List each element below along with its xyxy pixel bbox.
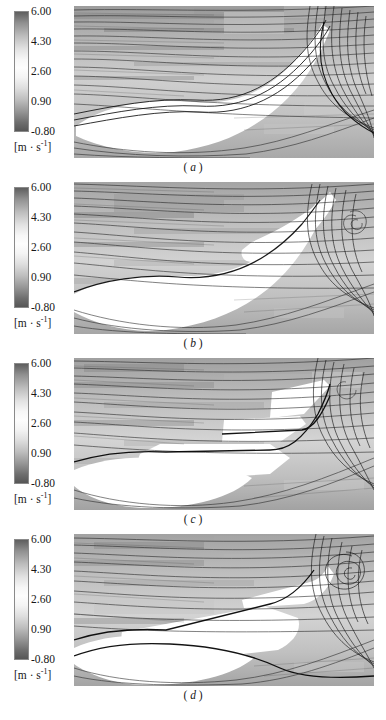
flow-svg-b	[74, 182, 374, 334]
colorbar-tick-labels: 6.00 4.30 2.60 0.90 -0.80	[31, 5, 75, 138]
caption-b: ( b )	[0, 336, 386, 350]
caption-close: )	[199, 689, 203, 701]
figure-root: 6.00 4.30 2.60 0.90 -0.80 [m · s-1]	[0, 0, 386, 720]
caption-close: )	[199, 161, 203, 173]
panel-c: 6.00 4.30 2.60 0.90 -0.80 [m · s-1]	[0, 352, 386, 527]
caption-open: (	[184, 513, 188, 525]
panel-a: 6.00 4.30 2.60 0.90 -0.80 [m · s-1]	[0, 0, 386, 175]
colorbar-tick: -0.80	[31, 477, 55, 489]
units-exponent: -1	[41, 139, 48, 148]
units-exponent: -1	[41, 491, 48, 500]
caption-d: ( d )	[0, 688, 386, 702]
colorbar-a: 6.00 4.30 2.60 0.90 -0.80 [m · s-1]	[14, 11, 72, 159]
colorbar-b: 6.00 4.30 2.60 0.90 -0.80 [m · s-1]	[14, 187, 72, 335]
caption-label: d	[190, 689, 196, 701]
caption-open: (	[183, 689, 187, 701]
flow-field-c	[74, 358, 374, 510]
flow-field-a	[74, 6, 374, 158]
colorbar-d: 6.00 4.30 2.60 0.90 -0.80 [m · s-1]	[14, 539, 72, 687]
units-text: [m · s	[14, 493, 41, 505]
colorbar-gradient	[14, 363, 29, 484]
flow-svg-c	[74, 358, 374, 510]
panel-b: 6.00 4.30 2.60 0.90 -0.80 [m · s-1]	[0, 176, 386, 351]
caption-a: ( a )	[0, 160, 386, 174]
colorbar-tick: 4.30	[31, 35, 51, 47]
colorbar-c: 6.00 4.30 2.60 0.90 -0.80 [m · s-1]	[14, 363, 72, 511]
caption-open: (	[183, 161, 187, 173]
colorbar-tick-labels: 6.00 4.30 2.60 0.90 -0.80	[31, 181, 75, 314]
caption-label: c	[190, 513, 195, 525]
units-bracket: ]	[48, 141, 52, 153]
units-text: [m · s	[14, 317, 41, 329]
colorbar-tick: 0.90	[31, 271, 51, 283]
colorbar-gradient	[14, 187, 29, 308]
flow-field-b	[74, 182, 374, 334]
colorbar-tick-labels: 6.00 4.30 2.60 0.90 -0.80	[31, 533, 75, 666]
colorbar-tick: 6.00	[31, 533, 51, 545]
colorbar-tick: 0.90	[31, 447, 51, 459]
colorbar-tick: 2.60	[31, 241, 51, 253]
colorbar-tick: 2.60	[31, 417, 51, 429]
panel-d: 6.00 4.30 2.60 0.90 -0.80 [m · s-1]	[0, 528, 386, 703]
flow-svg-d	[74, 534, 374, 686]
colorbar-tick: 0.90	[31, 623, 51, 635]
units-bracket: ]	[48, 493, 52, 505]
colorbar-tick: 2.60	[31, 593, 51, 605]
caption-label: a	[190, 161, 196, 173]
colorbar-tick: 4.30	[31, 211, 51, 223]
colorbar-gradient	[14, 539, 29, 660]
colorbar-units: [m · s-1]	[14, 489, 51, 506]
colorbar-tick: -0.80	[31, 653, 55, 665]
caption-close: )	[199, 337, 203, 349]
caption-label: b	[190, 337, 196, 349]
colorbar-tick: 2.60	[31, 65, 51, 77]
flow-svg-a	[74, 6, 374, 158]
caption-c: ( c )	[0, 512, 386, 526]
colorbar-units: [m · s-1]	[14, 665, 51, 682]
colorbar-units: [m · s-1]	[14, 313, 51, 330]
colorbar-tick: 6.00	[31, 181, 51, 193]
colorbar-tick: -0.80	[31, 301, 55, 313]
colorbar-tick: 4.30	[31, 387, 51, 399]
units-text: [m · s	[14, 141, 41, 153]
units-bracket: ]	[48, 317, 52, 329]
colorbar-tick: 6.00	[31, 357, 51, 369]
colorbar-tick: 0.90	[31, 95, 51, 107]
units-bracket: ]	[48, 669, 52, 681]
colorbar-tick: -0.80	[31, 125, 55, 137]
caption-close: )	[198, 513, 202, 525]
colorbar-tick: 4.30	[31, 563, 51, 575]
caption-open: (	[183, 337, 187, 349]
colorbar-tick-labels: 6.00 4.30 2.60 0.90 -0.80	[31, 357, 75, 490]
colorbar-units: [m · s-1]	[14, 137, 51, 154]
colorbar-gradient	[14, 11, 29, 132]
colorbar-tick: 6.00	[31, 5, 51, 17]
units-text: [m · s	[14, 669, 41, 681]
units-exponent: -1	[41, 667, 48, 676]
units-exponent: -1	[41, 315, 48, 324]
flow-field-d	[74, 534, 374, 686]
